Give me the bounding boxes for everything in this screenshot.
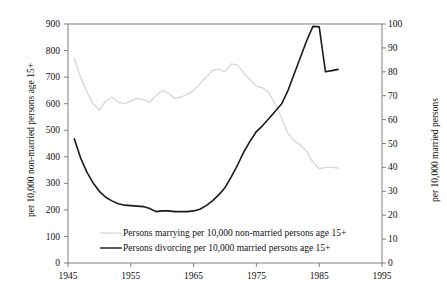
axis-ticks — [64, 24, 386, 267]
series-line-marrying — [74, 59, 338, 169]
legend-markers — [100, 233, 122, 248]
series-line-divorcing — [74, 26, 338, 211]
chart-figure: per 10,000 non-married persons age 15+ p… — [0, 0, 447, 303]
plot-area — [0, 0, 447, 303]
data-series — [74, 26, 338, 211]
plot-frame — [68, 24, 382, 263]
